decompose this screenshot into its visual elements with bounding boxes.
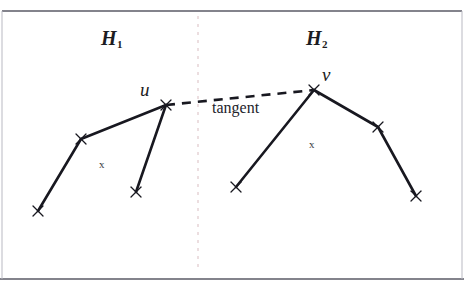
hull-right-edges — [236, 90, 416, 196]
hull-right-edge-2 — [378, 127, 416, 196]
hull-right-label-text: H — [306, 27, 322, 49]
hull-right-label-subscript: 2 — [322, 38, 328, 50]
vertex-marker — [411, 191, 421, 201]
interior-point-label-right: x — [309, 139, 315, 150]
vertex-marker — [373, 122, 383, 132]
vertex-v-label: v — [322, 65, 330, 84]
hull-right-label: H2 — [306, 28, 327, 48]
vertex-u-label: u — [140, 80, 150, 99]
hull-left-edge-0 — [38, 139, 81, 211]
hull-left-edge-1 — [81, 105, 166, 139]
hull-right-vertex-markers — [231, 85, 421, 201]
hull-left-label-subscript: 1 — [117, 38, 123, 50]
figure-canvas: H1 H2 u v tangent x x — [0, 0, 464, 293]
hull-left-edge-2 — [136, 105, 166, 192]
vertex-marker — [33, 206, 43, 216]
tangent-label: tangent — [212, 100, 259, 116]
hull-left-label-text: H — [101, 27, 117, 49]
figure-graphics — [0, 0, 464, 293]
vertex-marker — [231, 182, 241, 192]
interior-point-label-left: x — [99, 159, 105, 170]
hull-right-edge-1 — [314, 90, 378, 127]
hull-left-label: H1 — [101, 28, 122, 48]
